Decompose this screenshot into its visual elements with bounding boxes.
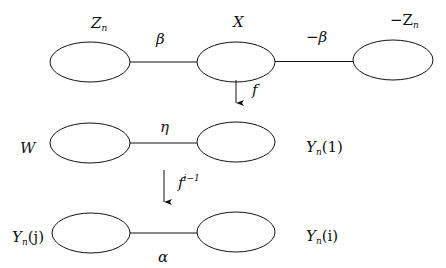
node-neg-zn <box>353 40 433 80</box>
node-zn <box>50 42 130 82</box>
diagram-canvas: Zn X −Zn β −β f W η Yn(1) fi−1 Y <box>0 0 446 268</box>
label-zn: Zn <box>90 14 107 33</box>
label-yni: Yn(i) <box>306 227 338 246</box>
arrow-f: f <box>236 80 260 103</box>
node-yni <box>197 212 275 252</box>
label-alpha: α <box>158 248 168 266</box>
label-x: X <box>232 13 245 31</box>
label-eta: η <box>160 118 169 136</box>
label-f-i-minus-1: fi−1 <box>177 173 200 192</box>
label-f: f <box>251 81 260 99</box>
arrow-f-power: fi−1 <box>164 170 200 202</box>
node-ynj <box>52 213 130 253</box>
row-bottom: Yn(j) Yn(i) α <box>12 212 338 266</box>
row-middle: W η Yn(1) <box>20 118 343 163</box>
node-x <box>197 42 275 82</box>
label-neg-beta: −β <box>306 28 328 46</box>
label-ynj: Yn(j) <box>12 228 44 247</box>
row-top: Zn X −Zn β −β <box>50 11 433 82</box>
label-yn1: Yn(1) <box>306 138 343 157</box>
label-neg-zn: −Zn <box>390 11 419 30</box>
label-beta: β <box>155 30 165 48</box>
label-w: W <box>20 139 37 157</box>
node-w <box>50 123 130 163</box>
node-yn1 <box>197 122 275 162</box>
